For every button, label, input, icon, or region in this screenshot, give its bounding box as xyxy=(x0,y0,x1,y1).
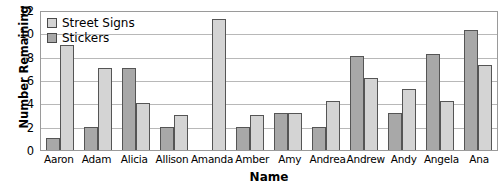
x-axis-ticks: AaronAdamAliciaAllisonAmandaAmberAmyAndr… xyxy=(40,153,498,167)
x-tick-label: Allison xyxy=(153,153,191,167)
y-tick-label: 12 xyxy=(12,6,34,16)
bar xyxy=(388,113,402,150)
y-axis-ticks: 024681012 xyxy=(10,0,34,191)
y-tick-label: 2 xyxy=(12,123,34,133)
bar xyxy=(312,127,326,150)
bar-group xyxy=(345,12,383,150)
bar xyxy=(212,19,226,150)
legend-swatch-icon xyxy=(47,33,57,43)
bar xyxy=(478,65,492,150)
bar-group xyxy=(231,12,269,150)
bar-group xyxy=(383,12,421,150)
x-tick-label: Alicia xyxy=(115,153,153,167)
bar xyxy=(288,113,302,150)
x-tick-label: Amanda xyxy=(191,153,233,167)
bar-group xyxy=(269,12,307,150)
y-tick-label: 4 xyxy=(12,99,34,109)
bar-group xyxy=(459,12,497,150)
bar xyxy=(402,89,416,150)
x-tick-label: Amber xyxy=(233,153,271,167)
bar xyxy=(122,68,136,150)
legend-label: Street Signs xyxy=(62,16,135,30)
bar xyxy=(46,138,60,150)
x-axis-label: Name xyxy=(40,170,498,184)
legend-swatch-icon xyxy=(47,18,57,28)
y-tick-label: 0 xyxy=(12,146,34,156)
bar xyxy=(274,113,288,150)
plot-area: Street SignsStickers xyxy=(40,11,498,151)
bar xyxy=(84,127,98,150)
bar-group xyxy=(155,12,193,150)
bar xyxy=(160,127,174,150)
bar-chart: Number Remaining 024681012 Street SignsS… xyxy=(0,0,504,191)
bar-group xyxy=(193,12,231,150)
x-tick-label: Amy xyxy=(271,153,309,167)
legend-label: Stickers xyxy=(62,31,109,45)
bar-group xyxy=(307,12,345,150)
bar xyxy=(426,54,440,150)
legend-item: Stickers xyxy=(47,30,135,45)
x-tick-label: Aaron xyxy=(40,153,78,167)
x-tick-label: Angela xyxy=(423,153,461,167)
x-tick-label: Ana xyxy=(460,153,498,167)
bar xyxy=(464,30,478,150)
chart-title xyxy=(104,0,404,2)
bar xyxy=(60,45,74,150)
bar xyxy=(440,101,454,150)
bar xyxy=(326,101,340,150)
bar xyxy=(136,103,150,150)
bar xyxy=(98,68,112,150)
bar xyxy=(250,115,264,150)
y-tick-label: 8 xyxy=(12,53,34,63)
y-tick-label: 10 xyxy=(12,29,34,39)
y-tick-label: 6 xyxy=(12,76,34,86)
x-tick-label: Andrew xyxy=(346,153,384,167)
x-tick-label: Andrea xyxy=(309,153,347,167)
bar xyxy=(350,56,364,151)
bar-group xyxy=(421,12,459,150)
chart-legend: Street SignsStickers xyxy=(47,15,135,45)
bar xyxy=(236,127,250,150)
bar xyxy=(364,78,378,150)
bar xyxy=(174,115,188,150)
x-tick-label: Andy xyxy=(385,153,423,167)
x-tick-label: Adam xyxy=(78,153,116,167)
legend-item: Street Signs xyxy=(47,15,135,30)
